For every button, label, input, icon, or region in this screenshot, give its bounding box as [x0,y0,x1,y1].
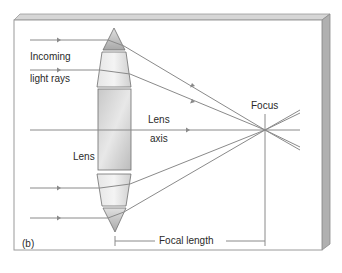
lens-diagram [0,0,342,273]
frame [14,14,330,250]
incoming-label-line1: Incoming [30,51,71,63]
lower-segment [97,174,131,206]
panel-label: (b) [22,238,34,250]
lens-axis-label-line1: Lens [148,114,170,126]
focus-label: Focus [251,100,278,112]
incoming-label-line2: light rays [30,73,70,85]
lens-label: Lens [73,151,95,163]
lens-axis-label-line2: axis [150,133,168,145]
focal-length-label: Focal length [159,235,213,247]
upper-segment [97,52,131,87]
